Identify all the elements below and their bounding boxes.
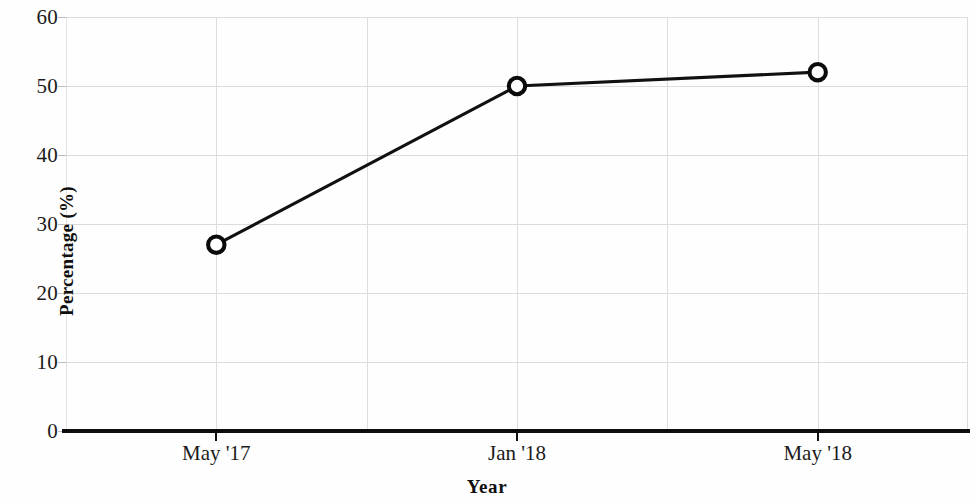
- data-series-layer: [0, 0, 974, 502]
- data-point-marker: [509, 78, 525, 94]
- series-line: [216, 72, 817, 245]
- data-point-marker: [810, 64, 826, 80]
- data-point-marker: [208, 237, 224, 253]
- series-markers: [208, 64, 826, 253]
- x-axis-title: Year: [0, 476, 974, 498]
- chart-figure: 0102030405060 May '17Jan '18May '18 Perc…: [0, 0, 974, 502]
- y-axis-title: Percentage (%): [56, 186, 78, 316]
